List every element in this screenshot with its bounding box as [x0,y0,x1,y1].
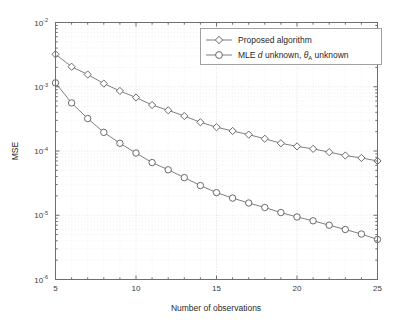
legend-mle-prefix: MLE [238,50,258,60]
x-tick-label: 20 [293,284,302,293]
circle-marker [68,100,74,106]
x-axis-title: Number of observations [171,303,261,313]
circle-marker [342,226,348,232]
chart-legend: Proposed algorithm MLE d unknown, θA unk… [201,29,382,65]
circle-marker [310,218,316,224]
circle-marker [326,222,332,228]
circle-marker [262,204,268,210]
circle-marker [101,129,107,135]
circle-marker [197,182,203,188]
x-tick-label: 25 [373,284,382,293]
circle-marker [294,214,300,220]
circle-marker [213,189,219,195]
figure-container: 510152025 10-210-310-410-510-6 Number of… [0,0,401,326]
x-tick-label: 5 [53,284,58,293]
legend-label-mle: MLE d unknown, θA unknown [238,50,349,61]
circle-marker [117,140,123,146]
circle-marker [358,231,364,237]
legend-mle-suffix: unknown [312,50,349,60]
circle-marker [85,115,91,121]
circle-marker [229,195,235,201]
circle-marker [246,200,252,206]
circle-marker [278,209,284,215]
legend-label-proposed-algorithm: Proposed algorithm [238,35,312,45]
circle-marker [216,52,223,59]
circle-marker [181,174,187,180]
circle-marker [133,150,139,156]
legend-mle-mid: unknown, [263,50,304,60]
x-tick-label: 10 [132,284,141,293]
circle-marker [165,167,171,173]
y-axis-title: MSE [10,141,20,160]
circle-marker [149,159,155,165]
mse-vs-observations-chart: 510152025 10-210-310-410-510-6 Number of… [0,0,401,326]
x-tick-label: 15 [212,284,221,293]
